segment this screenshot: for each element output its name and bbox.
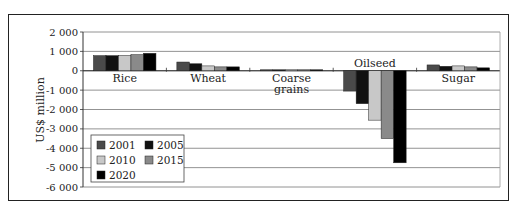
y-tick-label: 1 000 (49, 46, 78, 57)
bar-rice-2015 (131, 55, 144, 71)
category-label: grains (274, 83, 309, 96)
y-tick-label: 2 000 (49, 27, 78, 38)
legend-swatch-2001 (97, 141, 105, 149)
y-axis-label: US$ million (34, 77, 47, 143)
bar-oilseed-2010 (369, 71, 382, 120)
legend-swatch-2015 (145, 156, 153, 164)
category-label: Oilseed (354, 57, 396, 70)
legend-label-2005: 2005 (157, 139, 184, 151)
y-tick-label: 0 (72, 65, 78, 76)
category-label: Wheat (190, 72, 226, 85)
bar-sugar-2010 (452, 66, 465, 71)
bar-chart: 2 0001 0000-1 000-2 000-3 000-4 000-5 00… (0, 0, 518, 208)
bar-wheat-2015 (214, 67, 227, 71)
bar-sugar-2005 (440, 66, 453, 70)
bar-wheat-2020 (227, 67, 240, 71)
y-tick-label: -3 000 (46, 123, 78, 134)
category-label: Rice (112, 72, 136, 85)
bar-wheat-2005 (189, 64, 202, 71)
bar-rice-2010 (118, 55, 131, 70)
bar-coarse-grains-2010 (285, 70, 298, 71)
legend-swatch-2005 (145, 141, 153, 149)
legend-swatch-2020 (97, 171, 105, 179)
bar-coarse-grains-2005 (273, 70, 286, 71)
bar-wheat-2010 (202, 66, 215, 71)
y-tick-label: -1 000 (46, 85, 78, 96)
legend-label-2001: 2001 (109, 139, 136, 151)
bar-oilseed-2005 (356, 71, 369, 104)
bar-sugar-2020 (477, 68, 490, 71)
bar-rice-2005 (106, 56, 119, 71)
bar-sugar-2001 (427, 65, 440, 71)
bar-oilseed-2015 (381, 71, 394, 139)
y-tick-label: -6 000 (46, 182, 78, 193)
y-tick-label: -2 000 (46, 104, 78, 115)
category-label: Sugar (442, 72, 476, 85)
legend-swatch-2010 (97, 156, 105, 164)
bar-rice-2001 (93, 56, 106, 71)
bar-oilseed-2020 (394, 71, 407, 163)
bar-coarse-grains-2015 (298, 70, 311, 71)
bar-rice-2020 (143, 53, 156, 70)
legend-label-2010: 2010 (109, 154, 136, 166)
y-tick-label: -5 000 (46, 162, 78, 173)
legend-label-2020: 2020 (109, 169, 136, 181)
bar-wheat-2001 (177, 62, 190, 71)
bar-oilseed-2001 (344, 71, 357, 91)
bar-coarse-grains-2020 (310, 70, 323, 71)
y-tick-label: -4 000 (46, 143, 78, 154)
legend-label-2015: 2015 (157, 154, 184, 166)
bar-coarse-grains-2001 (260, 70, 273, 71)
bar-sugar-2015 (465, 67, 478, 71)
